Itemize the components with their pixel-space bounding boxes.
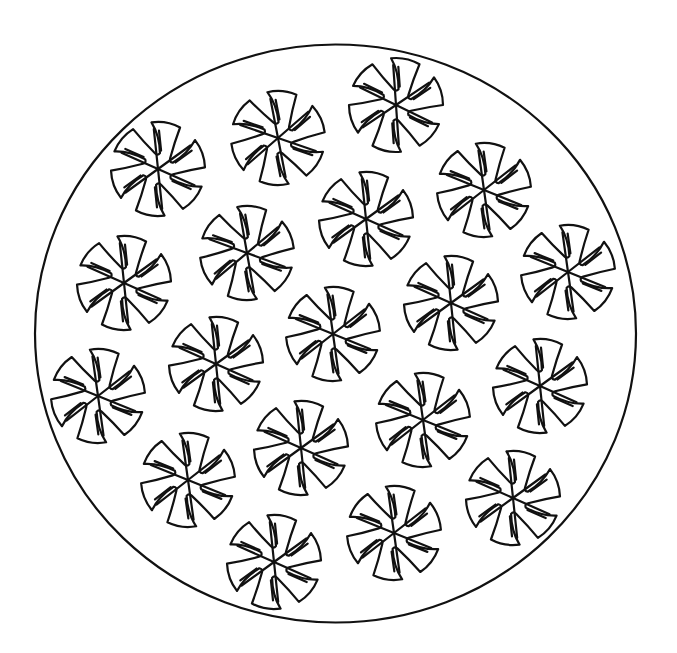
coloring-page-canvas [0,0,677,653]
